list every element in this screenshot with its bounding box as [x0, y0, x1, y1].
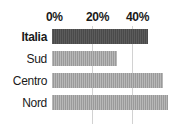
x-tick-label-0: 0% — [46, 10, 63, 24]
bar-sud — [52, 51, 117, 66]
bar-centro — [52, 73, 163, 88]
chart-row-sud: Sud — [0, 48, 175, 70]
category-label-nord: Nord — [0, 92, 47, 114]
bar-italia — [52, 29, 148, 44]
x-tick-label-20: 20% — [86, 10, 109, 24]
chart-row-centro: Centro — [0, 70, 175, 92]
category-label-italia: Italia — [0, 26, 47, 48]
x-tick-label-40: 40% — [126, 10, 149, 24]
chart-row-italia: Italia — [0, 26, 175, 48]
bar-nord — [52, 95, 168, 110]
category-label-centro: Centro — [0, 70, 47, 92]
category-label-sud: Sud — [0, 48, 47, 70]
chart-row-nord: Nord — [0, 92, 175, 114]
bar-chart: 0% 20% 40% Italia Sud Centro Nord — [0, 0, 175, 126]
